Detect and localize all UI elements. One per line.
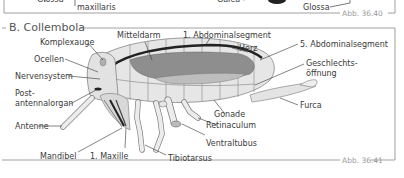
section-title: B. Collembola: [9, 21, 85, 34]
label-mandibel: Mandibel: [40, 152, 76, 161]
label-post: Post-: [15, 89, 35, 98]
label-ventraltubus: Ventraltubus: [206, 139, 257, 148]
label-herz: Herz: [239, 44, 257, 53]
label-tibiotarsus: Tibiotarsus: [168, 154, 212, 163]
label-mitteldarm: Mitteldarm: [117, 31, 160, 40]
label-glossa-left: Glossa: [37, 0, 64, 4]
label-antenne: Antenne: [15, 122, 49, 131]
label-antennalorgan: antennalorgan: [15, 99, 73, 108]
label-retinaculum: Retinaculum: [206, 121, 256, 130]
label-komplexauge: Komplexauge: [40, 38, 94, 47]
label-geschlechts: Geschlechts-: [306, 59, 358, 68]
label-maxillaris: maxillaris: [77, 3, 116, 12]
caption-36-40: Abb. 36.40: [342, 9, 383, 18]
label-galea: Galea: [217, 0, 240, 4]
label-5-abdominalsegment: 5. Abdominalsegment: [300, 40, 388, 49]
label-nervensystem: Nervensystem: [15, 72, 73, 81]
label-oeffnung: öffnung: [306, 69, 337, 78]
label-furca: Furca: [300, 101, 322, 110]
label-glossa-right: Glossa: [303, 3, 330, 12]
label-ocellen: Ocellen: [34, 55, 64, 64]
label-1-maxille: 1. Maxille: [90, 152, 128, 161]
label-1-abdominalsegment: 1. Abdominalsegment: [183, 31, 271, 40]
label-gonade: Gonade: [214, 110, 245, 119]
caption-36-41: Abb. 36.41: [342, 156, 383, 165]
